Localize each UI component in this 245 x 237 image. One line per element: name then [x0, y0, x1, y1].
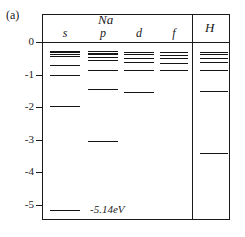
- energy-level-figure: (a) 0-1-2-3-4-5 Na H spdf -5.14eV: [0, 0, 245, 237]
- energy-level-H: [200, 54, 228, 55]
- energy-level-d: [124, 52, 154, 53]
- energy-level-f: [160, 55, 188, 56]
- energy-level-s: [50, 56, 80, 57]
- ground-state-annotation: -5.14eV: [90, 203, 125, 215]
- energy-level-H: [200, 62, 228, 63]
- energy-level-d: [124, 70, 154, 71]
- energy-level-p: [88, 60, 118, 61]
- energy-level-p: [88, 54, 118, 55]
- energy-level-p: [88, 89, 118, 90]
- y-tick--5: [36, 205, 43, 206]
- y-tick-label-0: 0: [14, 36, 34, 47]
- energy-level-H: [200, 58, 228, 59]
- energy-level-f: [160, 58, 188, 59]
- h-title: H: [205, 20, 214, 36]
- y-tick--3: [36, 140, 43, 141]
- energy-level-s: [50, 210, 80, 211]
- energy-level-H: [200, 52, 228, 53]
- energy-level-H: [200, 153, 228, 154]
- na-h-divider: [192, 14, 193, 220]
- energy-level-H: [200, 91, 228, 92]
- energy-level-s: [50, 75, 80, 76]
- energy-level-d: [124, 92, 154, 93]
- energy-level-H: [200, 70, 228, 71]
- energy-level-f: [160, 70, 188, 71]
- column-label-d: d: [131, 26, 147, 41]
- y-tick--1: [36, 75, 43, 76]
- energy-level-s: [50, 65, 80, 66]
- energy-level-d: [124, 54, 154, 55]
- plot-frame: [42, 14, 230, 220]
- energy-level-f: [160, 63, 188, 64]
- column-label-s: s: [57, 26, 73, 41]
- energy-level-s: [50, 54, 80, 55]
- y-tick-0: [36, 42, 43, 43]
- panel-label: (a): [6, 8, 19, 23]
- zero-energy-line: [42, 42, 230, 43]
- energy-level-p: [88, 57, 118, 58]
- y-tick-label--4: -4: [14, 166, 34, 177]
- column-label-f: f: [166, 26, 182, 41]
- energy-level-p: [88, 70, 118, 71]
- energy-level-f: [160, 52, 188, 53]
- energy-level-p: [88, 141, 118, 142]
- energy-level-s: [50, 106, 80, 107]
- y-axis: [42, 14, 43, 220]
- energy-level-d: [124, 58, 154, 59]
- y-tick-label--5: -5: [14, 199, 34, 210]
- y-tick--2: [36, 107, 43, 108]
- y-tick-label--1: -1: [14, 69, 34, 80]
- y-tick-label--2: -2: [14, 101, 34, 112]
- energy-level-d: [124, 62, 154, 63]
- column-label-p: p: [95, 26, 111, 41]
- y-tick-label--3: -3: [14, 134, 34, 145]
- y-tick--4: [36, 172, 43, 173]
